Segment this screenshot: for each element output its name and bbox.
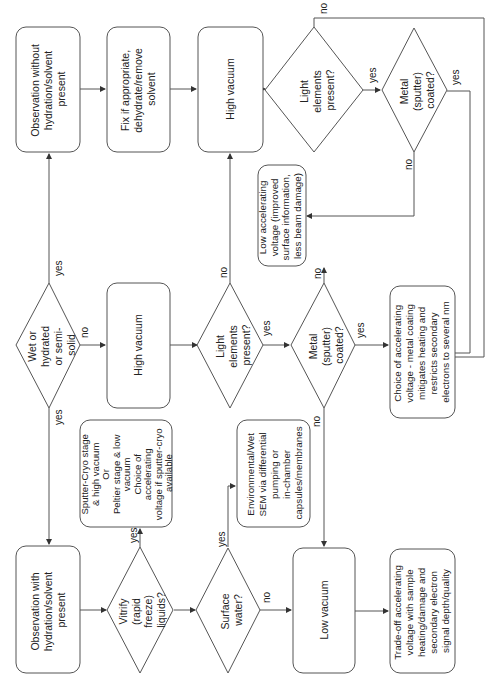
svg-text:High vacuum: High vacuum	[132, 314, 144, 376]
node-text: Low vacuum	[318, 580, 330, 639]
node-text: accelerating	[142, 448, 153, 500]
edge-label: yes	[128, 527, 139, 543]
node-text: present?	[240, 324, 252, 365]
edge-surface-yes	[228, 486, 235, 547]
node-text: capsules/membranes	[293, 426, 304, 519]
node-text: Fix if appropriate,	[119, 50, 131, 131]
node-text: Vitrify	[117, 598, 129, 625]
node-text: solid	[65, 334, 77, 356]
node-text: (sputter)	[320, 327, 332, 366]
node-text: Light	[214, 335, 226, 358]
node-text: restricts secondary	[428, 312, 439, 394]
node-text: available	[163, 454, 174, 492]
edge-label: yes	[53, 409, 64, 425]
node-text: dehydrate/remove	[132, 48, 144, 133]
node-surface-water: Surface water?	[196, 548, 260, 673]
edge-label: yes	[261, 320, 272, 336]
edge-label: no	[79, 326, 90, 338]
node-text: mitigates heating and	[416, 307, 427, 400]
node-text: Metal	[398, 79, 410, 105]
node-light-elements-mid: Light elements present?	[197, 283, 263, 408]
svg-text:Choice of accelerating v: Choice of accelerating voltage - metal c…	[392, 301, 451, 402]
node-high-vacuum-mid: High vacuum	[107, 283, 170, 408]
edge-metal-top-no	[307, 152, 414, 216]
node-text: elements	[227, 325, 239, 368]
node-text: High vacuum	[224, 58, 236, 120]
svg-text:Low vacuum: Low vacuum	[318, 580, 330, 639]
node-text: Light	[298, 80, 310, 103]
node-text: water?	[232, 594, 244, 627]
node-text: Trade-off accelerating	[392, 565, 403, 660]
node-text: signal depth/quality	[440, 569, 451, 653]
node-fix: Fix if appropriate, dehydrate/remove sol…	[107, 27, 170, 152]
node-wet-or-hydrated: Wet or hydrated or semi- solid	[16, 283, 80, 408]
node-text: Peltier stage & low	[111, 435, 122, 515]
node-choice-accelerating-voltage: Choice of accelerating voltage - metal c…	[390, 286, 455, 418]
node-low-accelerating-voltage: Low accelerating voltage (improved surfa…	[257, 165, 306, 266]
node-text: present?	[324, 69, 336, 110]
edge-label: yes	[216, 531, 227, 547]
node-high-vacuum-top: High vacuum	[198, 27, 263, 152]
node-text: hydrated	[39, 326, 51, 367]
edge-label: no	[311, 415, 322, 427]
node-text: Choice of accelerating	[392, 305, 403, 402]
node-text: secondary electron	[428, 571, 439, 654]
edge-label: yes	[367, 67, 378, 83]
node-text: Environmental/Wet	[245, 433, 256, 516]
node-text: heating/damage and	[416, 568, 427, 657]
svg-text:High vacuum: High vacuum	[224, 58, 236, 120]
node-text: pumping or	[269, 449, 280, 499]
svg-text:Low accelerating voltage: Low accelerating voltage (improved surfa…	[257, 172, 303, 261]
node-text: voltage (improved	[269, 178, 280, 256]
node-text: hydration/solvent	[42, 572, 54, 651]
node-text: (sputter)	[411, 72, 423, 111]
svg-text:Surface water?: Surface water?	[219, 590, 244, 629]
node-obs-with: Observation with hydration/solvent prese…	[16, 546, 80, 673]
node-text: SEM via differential	[257, 432, 268, 516]
node-environmental-sem: Environmental/Wet SEM via differential p…	[237, 420, 310, 527]
node-text: hydration/solvent	[42, 51, 54, 130]
node-text: present	[55, 71, 67, 106]
node-vitrify: Vitrify (rapid freeze) liquids?	[107, 547, 173, 673]
node-text: (rapid	[130, 598, 142, 625]
node-text: voltage - metal coating	[404, 304, 415, 403]
node-text: coated?	[424, 71, 436, 109]
svg-text:Vitrify (rapid fre: Vitrify (rapid freeze) liquids?	[117, 592, 167, 628]
node-text: voltage with sample	[404, 569, 415, 656]
edge-label: yes	[53, 260, 64, 276]
edge-label: yes	[355, 322, 366, 338]
node-text: less beam damage)	[292, 173, 303, 259]
node-text: voltage if sputter-cryo	[153, 428, 164, 520]
node-text: Observation with	[29, 572, 41, 650]
node-text: Sputter-Cryo stage	[79, 434, 90, 515]
node-tradeoff: Trade-off accelerating voltage with samp…	[390, 549, 455, 673]
node-text: electrons to several nm	[440, 301, 451, 402]
node-text: elements	[311, 70, 323, 113]
node-light-elements-top: Light elements present?	[265, 27, 363, 152]
edge-label: no	[312, 267, 323, 279]
edge-label: yes	[450, 69, 461, 85]
edge-label: no	[318, 2, 329, 14]
svg-text:Trade-off accelerating v: Trade-off accelerating voltage with samp…	[392, 562, 451, 660]
node-text: Metal	[307, 334, 319, 360]
node-text: Low accelerating	[257, 181, 268, 255]
node-text: present	[55, 592, 67, 627]
flowchart: Observation without hydration/solvent pr…	[0, 0, 496, 674]
node-text: Or	[100, 468, 111, 479]
node-text: coated?	[333, 326, 345, 364]
node-text: surface information,	[280, 174, 291, 260]
node-text: & high vacuum	[90, 443, 101, 506]
node-text: Surface	[219, 593, 231, 629]
node-metal-coated-top: Metal (sputter) coated?	[382, 28, 447, 152]
node-text: Observation without	[29, 44, 41, 137]
node-text: or semi-	[52, 327, 64, 365]
node-text: Wet or	[26, 331, 38, 362]
node-text: solvent	[145, 72, 157, 105]
node-text: liquids?	[155, 592, 167, 628]
node-text: in-chamber	[281, 449, 292, 499]
node-low-vacuum: Low vacuum	[293, 548, 355, 673]
node-obs-without: Observation without hydration/solvent pr…	[16, 27, 80, 152]
node-sputter-cryo: Sputter-Cryo stage & high vacuum Or Pelt…	[79, 420, 174, 527]
edge-label: no	[403, 158, 414, 170]
edge-label: no	[261, 591, 272, 603]
